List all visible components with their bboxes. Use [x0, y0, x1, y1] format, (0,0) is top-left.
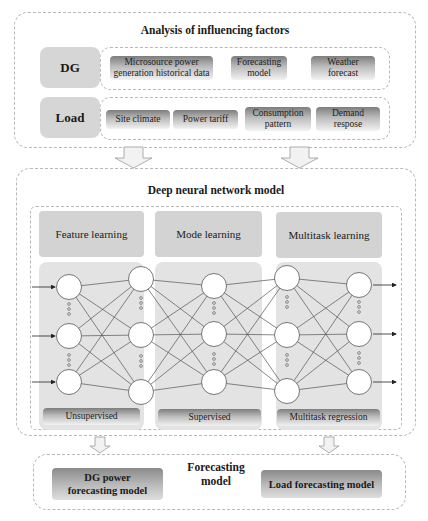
dg-power-forecasting-model-box: DG power forecasting model	[52, 468, 163, 500]
neural-network-diagram	[0, 0, 428, 521]
stage-footer-multitask-regression: Multitask regression	[277, 409, 380, 426]
load-forecasting-model-box: Load forecasting model	[261, 470, 382, 498]
forecasting-model-title: Forecasting model	[185, 460, 247, 488]
stage-footer-supervised: Supervised	[158, 409, 261, 426]
stage-footer-unsupervised: Unsupervised	[43, 408, 140, 425]
